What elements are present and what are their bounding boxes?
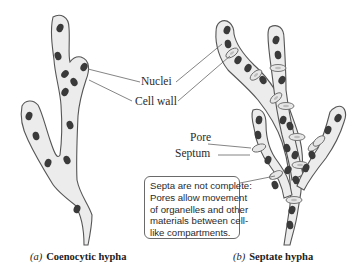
caption-b: (b)Septate hypha [233, 251, 313, 262]
caption-a-name: Coenocytic hypha [46, 251, 126, 262]
callout-line: like compartments. [150, 227, 239, 239]
callout-line: Septa are not complete: [150, 180, 239, 192]
caption-a: (a)Coenocytic hypha [30, 251, 126, 262]
callout-line: of organelles and other [150, 204, 239, 216]
hypha-diagram: Nuclei Cell wall Pore Septum Septa are n… [0, 0, 355, 273]
caption-a-letter: (a) [30, 251, 42, 262]
label-cell-wall: Cell wall [135, 96, 177, 108]
coenocytic-hypha [21, 15, 92, 245]
callout-line: materials between cell- [150, 215, 239, 227]
label-nuclei: Nuclei [141, 76, 172, 88]
septa-callout-box: Septa are not complete: Pores allow move… [144, 176, 240, 239]
caption-b-letter: (b) [233, 251, 245, 262]
caption-b-name: Septate hypha [249, 251, 313, 262]
label-septum: Septum [175, 148, 210, 160]
label-pore: Pore [190, 132, 211, 144]
callout-line: Pores allow movement [150, 192, 239, 204]
